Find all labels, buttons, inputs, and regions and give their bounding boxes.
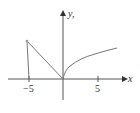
graph: y, x −5 5 [0, 0, 140, 113]
tick-label-5: 5 [95, 83, 100, 94]
endpoint-marker [26, 40, 29, 43]
sqrt-curve [63, 48, 117, 79]
left-segments [27, 41, 63, 79]
y-axis-arrow-icon [60, 10, 66, 16]
tick-label-neg5: −5 [23, 83, 34, 94]
y-axis-label: y, [67, 8, 74, 19]
x-axis-label: x [127, 73, 133, 84]
